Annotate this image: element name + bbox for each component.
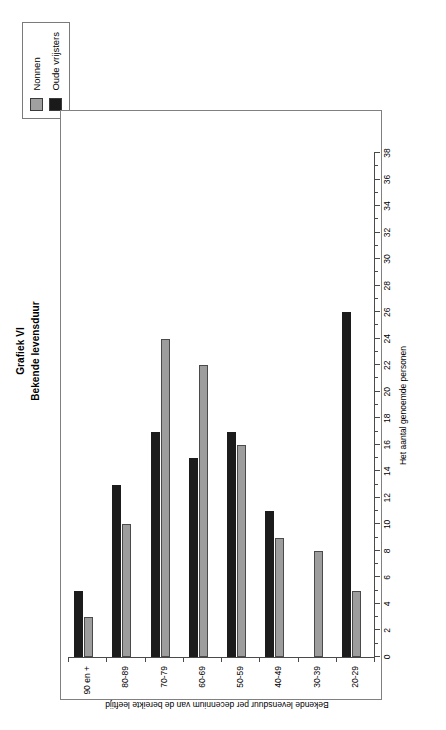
rotated-figure-container: Grafiek VI Bekende levensduur Nonnen Oud… xyxy=(0,0,446,730)
value-tick-label: 26 xyxy=(382,307,392,316)
legend-item-oude-vrijsters: Oude vrijsters xyxy=(49,32,62,111)
bar-nonnen-70-79 xyxy=(161,339,170,657)
bar-nonnen-50-59 xyxy=(237,445,246,657)
value-tick xyxy=(374,324,378,325)
bar-oude-vrijsters-20-29 xyxy=(342,312,351,657)
bar-oude-vrijsters-70-79 xyxy=(151,432,160,657)
legend-label-oude-vrijsters: Oude vrijsters xyxy=(50,32,61,91)
bar-nonnen-30-39 xyxy=(314,551,323,657)
value-tick xyxy=(374,245,378,246)
value-tick xyxy=(374,417,380,418)
value-tick-label: 4 xyxy=(382,602,392,607)
bar-oude-vrijsters-60-69 xyxy=(189,458,198,657)
category-tick xyxy=(183,657,184,662)
bar-nonnen-20-29 xyxy=(352,591,361,657)
value-tick-label: 0 xyxy=(382,655,392,660)
value-tick-label: 22 xyxy=(382,360,392,369)
value-axis-title: Het aantal genoemde personen xyxy=(398,153,408,658)
value-tick xyxy=(374,537,378,538)
value-tick-label: 24 xyxy=(382,334,392,343)
value-tick xyxy=(374,590,378,591)
value-tick xyxy=(374,603,380,604)
bar-nonnen-40-49 xyxy=(275,538,284,657)
value-tick xyxy=(374,444,380,445)
value-tick xyxy=(374,364,380,365)
legend-swatch-icon-oude-vrijsters xyxy=(49,98,62,111)
value-tick-label: 2 xyxy=(382,628,392,633)
value-tick-label: 38 xyxy=(382,148,392,157)
value-tick xyxy=(374,510,378,511)
value-tick xyxy=(374,457,378,458)
value-tick xyxy=(374,205,380,206)
value-tick xyxy=(374,523,380,524)
category-tick xyxy=(374,657,375,662)
value-tick-label: 8 xyxy=(382,549,392,554)
value-tick-label: 32 xyxy=(382,228,392,237)
chart-figure: Grafiek VI Bekende levensduur Nonnen Oud… xyxy=(0,0,446,730)
value-tick xyxy=(374,152,380,153)
legend-item-nonnen: Nonnen xyxy=(30,32,43,111)
legend-label-nonnen: Nonnen xyxy=(31,57,42,90)
value-tick xyxy=(374,563,378,564)
value-tick xyxy=(374,550,380,551)
value-tick xyxy=(374,643,378,644)
value-tick xyxy=(374,338,380,339)
category-tick xyxy=(106,657,107,662)
category-tick xyxy=(298,657,299,662)
value-tick-label: 34 xyxy=(382,201,392,210)
value-tick-label: 30 xyxy=(382,254,392,263)
chart-legend: Nonnen Oude vrijsters xyxy=(22,22,70,119)
category-axis-title-wrap: Bekende levensduur per decennium van de … xyxy=(212,540,222,730)
value-tick xyxy=(374,576,380,577)
value-tick-label: 10 xyxy=(382,520,392,529)
value-tick xyxy=(374,218,378,219)
value-tick-label: 16 xyxy=(382,440,392,449)
value-tick xyxy=(374,232,380,233)
value-tick xyxy=(374,192,378,193)
value-tick-label: 14 xyxy=(382,467,392,476)
value-tick xyxy=(374,298,378,299)
bar-oude-vrijsters-40-49 xyxy=(265,511,274,657)
value-tick-label: 12 xyxy=(382,493,392,502)
value-tick xyxy=(374,165,378,166)
bar-oude-vrijsters-50-59 xyxy=(227,432,236,657)
category-tick xyxy=(145,657,146,662)
chart-subtitle: Bekende levensduur xyxy=(29,186,44,516)
category-tick xyxy=(68,657,69,662)
value-tick xyxy=(374,179,380,180)
value-tick xyxy=(374,616,378,617)
value-tick xyxy=(374,470,380,471)
bar-oude-vrijsters-80-89 xyxy=(112,485,121,657)
category-tick xyxy=(259,657,260,662)
value-tick-label: 36 xyxy=(382,175,392,184)
bar-nonnen-90 en + xyxy=(84,617,93,657)
value-tick xyxy=(374,484,378,485)
value-tick xyxy=(374,431,378,432)
value-tick xyxy=(374,391,380,392)
value-tick xyxy=(374,271,378,272)
value-tick xyxy=(374,629,380,630)
value-tick-label: 20 xyxy=(382,387,392,396)
value-tick xyxy=(374,258,380,259)
bar-nonnen-60-69 xyxy=(199,365,208,657)
bar-nonnen-80-89 xyxy=(122,524,131,657)
category-tick xyxy=(336,657,337,662)
chart-title-block: Grafiek VI Bekende levensduur xyxy=(14,186,43,516)
value-tick xyxy=(374,351,378,352)
value-tick xyxy=(374,285,380,286)
value-tick xyxy=(374,311,380,312)
value-tick xyxy=(374,377,378,378)
value-tick-label: 18 xyxy=(382,414,392,423)
value-tick xyxy=(374,497,380,498)
category-axis-line xyxy=(374,152,375,658)
value-tick-label: 6 xyxy=(382,575,392,580)
value-tick-label: 28 xyxy=(382,281,392,290)
category-axis-title: Bekende levensduur per decennium van de … xyxy=(52,700,382,710)
value-tick xyxy=(374,404,378,405)
bar-oude-vrijsters-90 en + xyxy=(74,591,83,657)
legend-swatch-icon-nonnen xyxy=(30,98,43,111)
chart-title: Grafiek VI xyxy=(14,186,29,516)
